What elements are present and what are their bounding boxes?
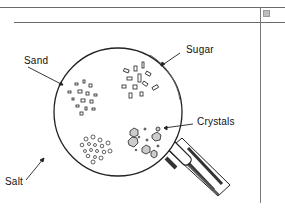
label-sugar: Sugar xyxy=(186,44,214,55)
magnifier-lens xyxy=(54,48,182,176)
label-salt: Salt xyxy=(5,176,23,187)
label-sand: Sand xyxy=(24,55,48,66)
label-crystals: Crystals xyxy=(197,116,235,127)
magnifier-handle xyxy=(163,137,230,196)
magnifier-illustration xyxy=(0,0,285,213)
